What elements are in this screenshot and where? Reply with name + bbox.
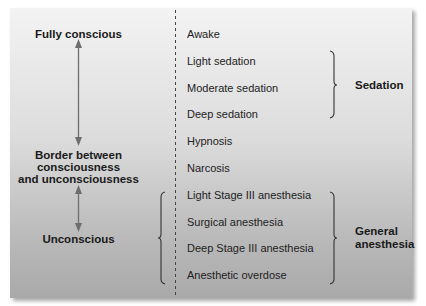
state-border-line-1: Border between (10, 149, 147, 161)
state-border-line-3: and unconsciousness (10, 173, 147, 185)
general-anesthesia-brace-icon (330, 192, 337, 284)
level-hypnosis: Hypnosis (187, 135, 232, 147)
double-arrow-icon (75, 39, 82, 146)
level-deep-sedation: Deep sedation (187, 108, 258, 120)
level-anesthetic-overdose: Anesthetic overdose (187, 269, 287, 281)
level-surgical-anesthesia: Surgical anesthesia (187, 216, 283, 228)
level-moderate-sedation: Moderate sedation (187, 82, 278, 94)
state-border-line-2: consciousness (10, 161, 147, 173)
state-fully-conscious: Fully conscious (10, 28, 147, 40)
state-border: Border between consciousness and unconsc… (10, 149, 147, 185)
level-deep-stage-iii: Deep Stage III anesthesia (187, 242, 314, 254)
level-light-stage-iii: Light Stage III anesthesia (187, 189, 311, 201)
unconscious-brace-icon (158, 192, 165, 284)
group-general-anesthesia: General anesthesia (355, 225, 414, 251)
sedation-brace-icon (330, 51, 337, 118)
double-arrow-icon-2 (75, 185, 82, 232)
level-light-sedation: Light sedation (187, 55, 256, 67)
level-awake: Awake (187, 28, 220, 40)
group-general-anesthesia-line-2: anesthesia (355, 238, 414, 251)
level-narcosis: Narcosis (187, 162, 230, 174)
group-general-anesthesia-line-1: General (355, 225, 414, 238)
state-unconscious: Unconscious (10, 233, 147, 245)
group-sedation: Sedation (355, 79, 404, 92)
